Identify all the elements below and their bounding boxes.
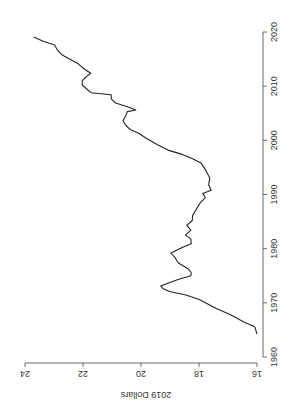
y-tick-label: 22: [78, 369, 88, 379]
rotated-line-chart: 19601970198019902000201020201618202224 2…: [0, 0, 293, 410]
y-tick-label: 18: [194, 369, 204, 379]
x-tick-label: 1990: [269, 184, 279, 204]
x-tick-label: 1970: [269, 293, 279, 313]
chart-canvas: 19601970198019902000201020201618202224 2…: [0, 0, 293, 410]
axes: 19601970198019902000201020201618202224: [20, 22, 279, 379]
x-tick-label: 1960: [269, 347, 279, 367]
x-tick-label: 2020: [269, 22, 279, 42]
data-line: [34, 37, 257, 334]
x-tick-label: 1980: [269, 239, 279, 259]
x-tick-label: 2000: [269, 130, 279, 150]
y-axis-label: 2019 Dollars: [120, 390, 171, 400]
x-tick-label: 2010: [269, 76, 279, 96]
y-tick-label: 24: [20, 369, 30, 379]
y-tick-label: 16: [252, 369, 262, 379]
y-tick-label: 20: [136, 369, 146, 379]
